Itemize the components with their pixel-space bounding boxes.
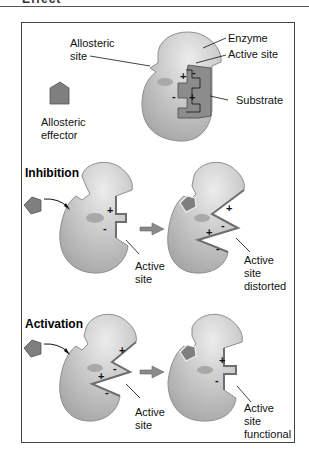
enzyme-internal-shade — [86, 213, 104, 223]
panel-activation: Activation + - + - Active site + - Activ… — [24, 314, 291, 440]
charge-plus: + — [107, 204, 113, 216]
heading-activation: Activation — [25, 317, 83, 331]
label-allosteric-effector-line2: effector — [41, 129, 78, 141]
charge-plus: + — [180, 70, 186, 82]
charge-minus: - — [172, 90, 176, 102]
charge-minus: - — [221, 219, 225, 231]
active-site-leader — [126, 384, 140, 398]
charge-minus: - — [215, 374, 219, 386]
allosteric-effector-icon — [24, 197, 41, 214]
transition-arrow-icon — [140, 223, 164, 235]
charge-minus: - — [192, 66, 196, 78]
enzyme-internal-shade — [194, 214, 210, 222]
substrate-leader — [210, 96, 228, 100]
allosteric-diagram: + - - + Allosteric site Enzyme Active si… — [0, 0, 309, 467]
charge-minus: - — [105, 386, 109, 398]
label-distorted: distorted — [244, 280, 286, 292]
label-substrate: Substrate — [236, 94, 283, 106]
label-active-site-line2: site — [244, 415, 261, 427]
label-active-site-line2: site — [244, 267, 261, 279]
charge-plus: + — [226, 202, 232, 214]
enzyme-internal-shade — [197, 366, 213, 374]
allosteric-effector-icon — [24, 340, 41, 357]
heading-inhibition: Inhibition — [25, 166, 79, 180]
transition-arrow-icon — [140, 366, 164, 378]
label-allosteric-site-line2: site — [70, 50, 87, 62]
label-allosteric-site: Allosteric — [70, 37, 115, 49]
label-active-site: Active site — [228, 48, 278, 60]
charge-plus: + — [189, 91, 195, 103]
allosteric-effector-icon — [50, 82, 69, 104]
label-allosteric-effector: Allosteric — [41, 116, 86, 128]
charge-plus: + — [119, 344, 125, 356]
charge-plus: + — [98, 370, 104, 382]
label-functional: functional — [244, 428, 291, 440]
charge-minus: - — [113, 362, 117, 374]
label-active-site-line2: site — [135, 273, 152, 285]
label-active-site: Active — [135, 406, 165, 418]
label-active-site-line2: site — [135, 419, 152, 431]
allosteric-site-leader — [90, 56, 150, 66]
label-active-site: Active — [135, 260, 165, 272]
label-active-site: Active — [244, 402, 274, 414]
charge-minus: - — [103, 222, 107, 234]
charge-plus: + — [206, 226, 212, 238]
charge-plus: + — [219, 354, 225, 366]
panel-overview: + - - + Allosteric site Enzyme Active si… — [41, 32, 283, 141]
label-enzyme: Enzyme — [228, 32, 268, 44]
enzyme-internal-shade — [157, 78, 173, 86]
active-site-leader — [236, 238, 250, 252]
active-site-leader — [237, 386, 251, 402]
label-active-site: Active — [244, 254, 274, 266]
charge-minus: - — [216, 242, 220, 254]
panel-inhibition: Inhibition + - Active site + - + - Activ… — [24, 162, 286, 292]
